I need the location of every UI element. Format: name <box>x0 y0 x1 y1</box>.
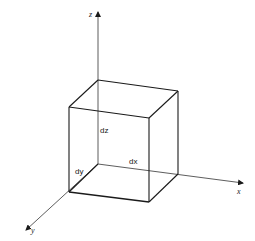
cube-edge <box>149 174 178 202</box>
cube-edge <box>69 107 149 118</box>
cube <box>69 80 178 202</box>
cube-edge <box>149 91 178 118</box>
dx-label: dx <box>129 157 137 166</box>
volume-element-diagram: z x y dz dx dy <box>0 0 255 241</box>
z-axis-label: z <box>88 10 93 19</box>
x-axis-label: x <box>236 187 241 196</box>
axes <box>26 12 243 230</box>
cube-edge <box>98 80 178 91</box>
dz-label: dz <box>100 126 108 135</box>
cube-edge <box>69 192 149 202</box>
cube-edge <box>69 80 98 107</box>
cube-edge <box>69 164 98 192</box>
dy-label: dy <box>75 167 83 176</box>
x-axis <box>98 164 243 183</box>
y-axis-label: y <box>30 226 35 235</box>
